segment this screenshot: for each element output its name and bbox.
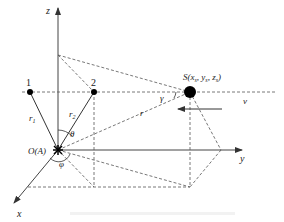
r-label: r (140, 108, 144, 118)
x-axis-label: x (16, 208, 22, 219)
gamma-arc (174, 92, 176, 98)
source-point (184, 86, 196, 98)
r2-label: r2 (69, 109, 76, 120)
origin-marker (53, 145, 63, 155)
microphone-point-1 (27, 89, 33, 95)
dashed-z-to-point2 (58, 55, 94, 92)
velocity-label: v (243, 96, 247, 106)
r1-label: r1 (29, 113, 36, 124)
y-axis-label: y (239, 153, 245, 164)
x-axis (14, 150, 58, 203)
r-line (58, 92, 190, 150)
phi-label: φ (59, 159, 64, 169)
dashed-y-to-ground (190, 150, 221, 187)
microphone-point-2 (91, 89, 97, 95)
gamma-label: γ (160, 93, 164, 103)
theta-label: θ (70, 129, 75, 139)
geometry-diagram: z y x 1 2 O(A) S(xs, ys, zs) r1 r2 r θ φ… (0, 0, 284, 222)
source-label: S(xs, ys, zs) (183, 72, 221, 83)
figure-caption (70, 212, 235, 215)
r2-line (58, 92, 94, 150)
dashed-z-to-source (58, 55, 190, 92)
dashed-source-to-y (190, 92, 221, 150)
point-1-label: 1 (26, 77, 31, 88)
origin-label: O(A) (28, 146, 46, 156)
point-2-label: 2 (91, 77, 96, 88)
z-axis-label: z (45, 5, 50, 16)
dashed-origin-to-ground (58, 150, 190, 187)
